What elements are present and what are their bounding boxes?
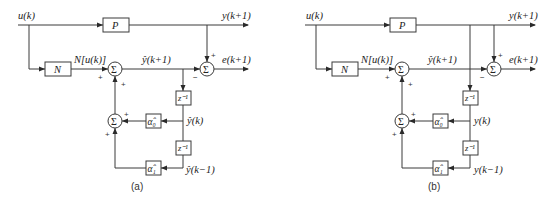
arrow-icon <box>243 67 249 72</box>
sign-plus: + <box>121 80 126 89</box>
sign-minus: − <box>193 73 198 82</box>
model-label: N <box>53 64 62 75</box>
sum-symbol: Σ <box>203 64 209 75</box>
coef1-output-line <box>115 128 146 168</box>
plant-label: P <box>111 20 119 31</box>
sign-plus: + <box>98 73 103 82</box>
arrow-icon <box>400 76 405 82</box>
model-branch-line <box>29 25 45 69</box>
model-output-label: N[u(k)] <box>360 54 393 66</box>
arrow-icon <box>326 67 332 72</box>
arrow-icon <box>161 119 167 124</box>
coef1-output-line <box>402 128 433 168</box>
sign-plus: + <box>392 130 397 139</box>
coef0-label: α̂₀ <box>148 117 157 127</box>
error-label: e(k+1) <box>509 54 538 66</box>
arrow-icon <box>530 67 536 72</box>
plant-label: P <box>398 20 406 31</box>
input-label: u(k) <box>18 10 35 22</box>
tap1-label: y(k−1) <box>473 164 503 176</box>
arrow-icon <box>400 128 405 134</box>
arrow-icon <box>384 23 390 28</box>
arrow-icon <box>161 166 167 171</box>
arrow-icon <box>102 67 108 72</box>
arrow-icon <box>448 166 454 171</box>
sign-plus: + <box>498 51 503 60</box>
arrow-icon <box>97 23 103 28</box>
coef1-label: α̂₁ <box>435 164 444 174</box>
arrow-icon <box>194 67 200 72</box>
model-label: N <box>340 64 349 75</box>
arrow-icon <box>468 85 473 91</box>
estimate-label: ŷ(k+1) <box>141 54 171 66</box>
sign-plus: + <box>411 110 416 119</box>
model-output-label: N[u(k)] <box>73 54 106 66</box>
arrow-icon <box>113 128 118 134</box>
arrow-icon <box>389 67 395 72</box>
sum-symbol: Σ <box>111 64 117 75</box>
caption: (a) <box>131 181 143 192</box>
delay-label: z⁻¹ <box>464 143 475 153</box>
tap0-label: y(k) <box>473 115 491 127</box>
error-label: e(k+1) <box>222 54 251 66</box>
caption: (b) <box>428 181 440 192</box>
diagram-canvas: P u(k) y(k+1) N N[u(k)] + Σ ŷ(k+1) + − Σ… <box>0 0 551 203</box>
arrow-icon <box>409 119 415 124</box>
tap0-label: ŷ(k) <box>186 115 204 127</box>
sign-plus: + <box>211 51 216 60</box>
arrow-icon <box>39 67 45 72</box>
arrow-icon <box>481 67 487 72</box>
arrow-icon <box>530 23 536 28</box>
input-label: u(k) <box>306 10 323 22</box>
sum-symbol: Σ <box>111 116 117 127</box>
model-branch-line <box>316 25 332 69</box>
arrow-icon <box>181 85 186 91</box>
arrow-icon <box>205 56 210 62</box>
plant-output-label: y(k+1) <box>508 10 538 22</box>
sign-minus: − <box>480 73 485 82</box>
delay-label: z⁻¹ <box>464 93 475 103</box>
sum-symbol: Σ <box>398 64 404 75</box>
delay-label: z⁻¹ <box>177 93 188 103</box>
plant-output-label: y(k+1) <box>221 10 251 22</box>
coef0-label: α̂₀ <box>435 117 444 127</box>
arrow-icon <box>448 119 454 124</box>
sign-plus: + <box>105 130 110 139</box>
coef1-label: α̂₁ <box>148 164 157 174</box>
sum-symbol: Σ <box>490 64 496 75</box>
diagram-b: P u(k) y(k+1) N N[u(k)] + Σ ŷ(k+1) + − Σ… <box>305 10 538 192</box>
sign-plus: + <box>385 73 390 82</box>
sign-plus: + <box>408 80 413 89</box>
sum-symbol: Σ <box>398 116 404 127</box>
arrow-icon <box>122 119 128 124</box>
arrow-icon <box>243 23 249 28</box>
arrow-icon <box>113 76 118 82</box>
sign-plus: + <box>124 110 129 119</box>
estimate-label: ŷ(k+1) <box>427 54 457 66</box>
tap1-label: ŷ(k−1) <box>185 164 215 176</box>
delay-label: z⁻¹ <box>177 143 188 153</box>
arrow-icon <box>492 56 497 62</box>
diagram-a: P u(k) y(k+1) N N[u(k)] + Σ ŷ(k+1) + − Σ… <box>18 10 251 192</box>
